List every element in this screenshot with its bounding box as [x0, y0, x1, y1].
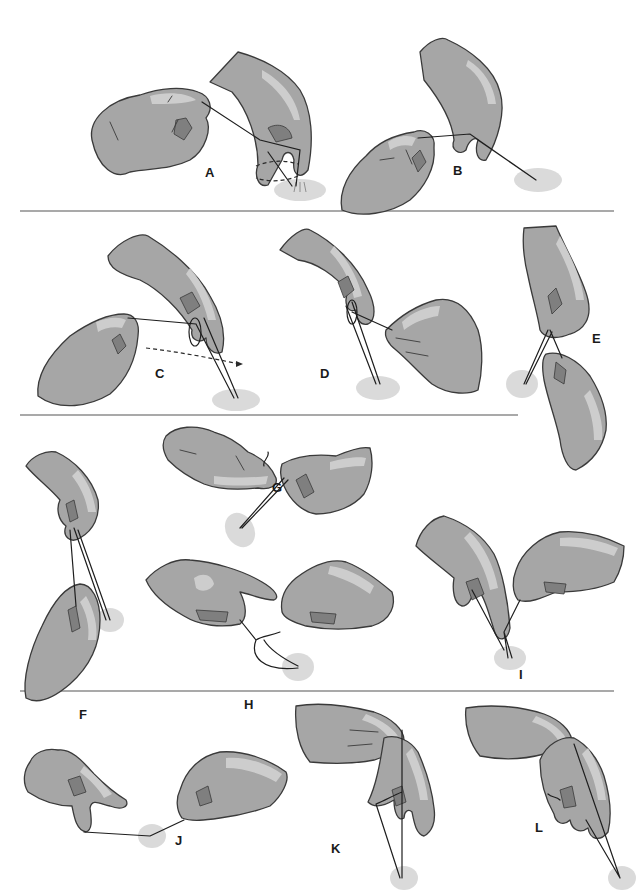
glove-hand-icon — [146, 560, 277, 626]
panel-label-b: B — [453, 163, 462, 178]
panel-label-a: A — [205, 165, 215, 180]
panel-label-c: C — [155, 366, 165, 381]
tissue-icon — [608, 866, 636, 890]
glove-hand-icon — [416, 516, 510, 639]
glove-hand-icon — [25, 584, 100, 701]
panel-label-e: E — [592, 331, 601, 346]
tissue-icon — [390, 866, 418, 890]
panel-h: H — [146, 560, 393, 712]
glove-hand-icon — [385, 299, 481, 393]
knot-tying-figure: A B C — [0, 0, 644, 893]
suture-thread — [240, 620, 298, 669]
glove-hand-icon — [543, 353, 607, 470]
glove-hand-icon — [281, 447, 372, 514]
panel-label-k: K — [331, 841, 341, 856]
glove-hand-icon — [523, 226, 589, 337]
glove-hand-icon — [24, 750, 127, 833]
glove-hand-icon — [26, 452, 98, 540]
panel-label-g: G — [272, 480, 282, 495]
tissue-icon — [506, 370, 538, 398]
panel-a: A — [91, 52, 326, 201]
dashed-arrow-icon — [146, 348, 240, 364]
panel-b: B — [341, 39, 562, 215]
glove-hand-icon — [163, 427, 276, 489]
panel-j: J — [24, 750, 287, 849]
glove-hand-icon — [513, 532, 624, 602]
tissue-icon — [514, 168, 562, 192]
panel-label-f: F — [79, 707, 87, 722]
suture-thread — [418, 134, 536, 180]
panel-i: I — [416, 516, 624, 682]
panel-label-d: D — [320, 366, 329, 381]
glove-hand-icon — [38, 314, 139, 406]
panel-label-l: L — [535, 820, 543, 835]
panel-k: K — [296, 704, 435, 890]
panel-e: E — [506, 226, 606, 470]
glove-hand-icon — [341, 131, 434, 214]
glove-hand-icon — [177, 752, 287, 821]
glove-hand-icon — [282, 561, 394, 629]
glove-hand-icon — [91, 88, 210, 174]
panel-d: D — [280, 229, 482, 400]
panel-label-j: J — [175, 833, 182, 848]
tissue-icon — [282, 653, 314, 681]
panel-label-h: H — [244, 697, 253, 712]
panel-l: L — [466, 706, 636, 890]
panel-g: G — [163, 427, 372, 553]
panel-label-i: I — [519, 667, 523, 682]
panel-f: F — [25, 452, 124, 722]
suture-thread — [84, 820, 184, 836]
glove-hand-icon — [540, 738, 610, 839]
panel-c: C — [38, 235, 260, 411]
glove-hand-icon — [280, 229, 374, 324]
glove-hand-icon — [210, 52, 311, 185]
